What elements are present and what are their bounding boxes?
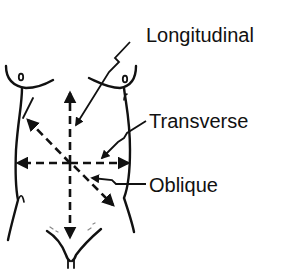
oblique-up-left-arrow-icon [28, 120, 70, 163]
oblique-pointer-icon [92, 178, 146, 184]
right-nipple-icon [123, 76, 127, 83]
direction-arrows [18, 93, 128, 237]
longitudinal-label: Longitudinal [146, 25, 254, 45]
transverse-label: Transverse [149, 111, 248, 131]
transverse-pointer-icon [102, 121, 146, 158]
left-nipple-icon [19, 74, 23, 81]
diagram-canvas: Longitudinal Transverse Oblique [0, 0, 284, 269]
oblique-label: Oblique [149, 175, 218, 195]
oblique-down-right-arrow-icon [74, 166, 113, 205]
